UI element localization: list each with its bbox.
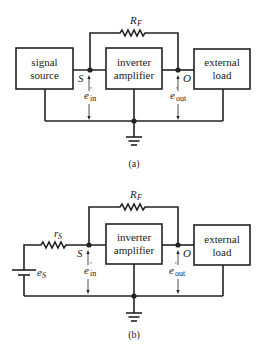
rf-b-label: R <box>129 188 137 200</box>
ground-icon <box>126 137 142 145</box>
node-s-dot <box>87 67 92 72</box>
rf-subscript: F <box>136 19 142 28</box>
node-s-label-b: S <box>77 247 83 259</box>
external-load-block-b <box>194 225 250 265</box>
caption-a: (a) <box>128 158 139 170</box>
load-b-label-1: external <box>204 233 239 245</box>
inverter-b-label-1: inverter <box>117 231 152 243</box>
e-out-subscript: out <box>176 94 187 103</box>
ground-node-dot <box>131 118 136 123</box>
e-out-label-b: e <box>169 264 174 276</box>
load-label-2: load <box>213 69 232 81</box>
rf-label: R <box>129 14 137 26</box>
ground-icon-b <box>126 313 142 321</box>
signal-source-label-1: signal <box>31 56 57 68</box>
load-label-1: external <box>204 56 239 68</box>
e-in-label-b: e <box>84 264 89 276</box>
node-s-dot-b <box>86 242 91 247</box>
ground-node-dot-b <box>131 293 136 298</box>
caption-b: (b) <box>128 329 140 341</box>
figure-b: inverter amplifier external load r S e S… <box>12 188 250 341</box>
e-in-label: e <box>84 89 89 101</box>
battery-icon <box>12 270 36 275</box>
circuit-diagrams: signal source inverter amplifier externa… <box>0 0 267 344</box>
inverter-label-2: amplifier <box>114 69 155 81</box>
inverter-b-label-2: amplifier <box>114 244 155 256</box>
es-subscript: S <box>42 271 46 280</box>
node-o-label: O <box>183 72 191 84</box>
signal-source-label-2: source <box>30 69 59 81</box>
e-in-subscript: in <box>90 94 96 103</box>
e-out-label: e <box>170 89 175 101</box>
load-b-label-2: load <box>213 246 232 258</box>
figure-a: signal source inverter amplifier externa… <box>16 14 250 170</box>
rs-subscript: S <box>58 232 62 241</box>
node-o-dot <box>175 67 180 72</box>
inverter-label-1: inverter <box>117 56 152 68</box>
e-out-subscript-b: out <box>175 269 186 278</box>
e-in-subscript-b: in <box>90 269 96 278</box>
node-o-label-b: O <box>183 247 191 259</box>
rf-b-subscript: F <box>136 193 142 202</box>
node-o-dot-b <box>175 242 180 247</box>
node-s-label: S <box>78 72 84 84</box>
